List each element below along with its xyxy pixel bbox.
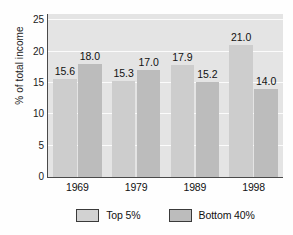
x-axis-tick-label: 1979 <box>107 181 166 193</box>
legend-swatch <box>76 209 99 222</box>
bar-value-label: 15.3 <box>109 68 139 79</box>
bar <box>137 70 161 177</box>
bar <box>112 81 136 177</box>
bars-layer: 15.618.015.317.017.915.221.014.0 <box>48 14 283 177</box>
bar-value-label: 18.0 <box>75 51 105 62</box>
x-axis-tick-label: 1969 <box>48 181 107 193</box>
x-axis-tick-labels: 1969197919891998 <box>48 181 283 195</box>
x-axis-tick-label: 1998 <box>224 181 283 193</box>
legend-item[interactable]: Bottom 40% <box>169 209 255 222</box>
legend-label: Bottom 40% <box>199 209 255 221</box>
y-axis-tick-label: 0 <box>22 172 44 182</box>
bar-value-label: 14.0 <box>251 76 281 87</box>
y-axis-tick-label: 15 <box>22 78 44 88</box>
bar-value-label: 17.9 <box>168 52 198 63</box>
y-axis-tick-label: 5 <box>22 141 44 151</box>
bar-value-label: 17.0 <box>134 57 164 68</box>
legend-label: Top 5% <box>106 209 140 221</box>
bar <box>53 79 77 177</box>
bar <box>196 82 220 177</box>
bar <box>171 65 195 177</box>
y-axis-tick-labels: 0510152025 <box>22 14 44 177</box>
legend: Top 5%Bottom 40% <box>48 204 283 226</box>
bar <box>78 64 102 177</box>
bar-value-label: 15.2 <box>193 69 223 80</box>
bar <box>229 45 253 177</box>
y-axis-tick-label: 20 <box>22 47 44 57</box>
x-axis-tick-label: 1989 <box>166 181 225 193</box>
bar-value-label: 21.0 <box>226 32 256 43</box>
bar <box>254 89 278 177</box>
legend-item[interactable]: Top 5% <box>76 209 140 222</box>
x-axis-line <box>47 177 283 178</box>
bar-value-label: 15.6 <box>50 66 80 77</box>
plot-area: 15.618.015.317.017.915.221.014.0 <box>48 14 283 177</box>
y-axis-tick-label: 10 <box>22 109 44 119</box>
legend-swatch <box>169 209 192 222</box>
bar-chart: % of total income 0510152025 15.618.015.… <box>0 0 293 235</box>
y-axis-tick-label: 25 <box>22 15 44 25</box>
